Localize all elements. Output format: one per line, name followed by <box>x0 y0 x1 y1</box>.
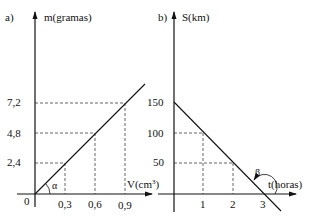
y-tick-a-2: 4,8 <box>7 127 21 139</box>
x-axis-label-b: t(horas) <box>268 178 303 191</box>
guide-lines-b <box>174 133 233 194</box>
origin-label-a: 0 <box>24 195 30 207</box>
chart-a: a) m(gramas) V(cm3) 0 α 7,2 4,8 2,4 0,3 … <box>5 11 160 211</box>
x-tick-a-1: 0,3 <box>58 198 72 210</box>
x-tick-b-3: 3 <box>260 198 266 210</box>
chart-b: b) S(km) t(horas) β 150 100 50 1 2 3 <box>147 11 303 212</box>
x-axis-label-a: V(cm3) <box>127 178 160 191</box>
y-tick-a-3: 7,2 <box>7 96 21 108</box>
x-tick-a-3: 0,9 <box>118 199 132 211</box>
y-axis-label-b: S(km) <box>182 11 210 24</box>
y-axis-label-a: m(gramas) <box>44 11 92 24</box>
angle-arc-a <box>46 183 50 194</box>
x-tick-a-2: 0,6 <box>88 198 102 210</box>
y-tick-b-2: 100 <box>147 127 164 139</box>
x-tick-b-2: 2 <box>230 198 236 210</box>
angle-beta: β <box>255 167 260 178</box>
figure: a) m(gramas) V(cm3) 0 α 7,2 4,8 2,4 0,3 … <box>0 0 318 220</box>
y-tick-b-1: 50 <box>153 156 165 168</box>
panel-b-label: b) <box>158 11 168 24</box>
data-line-b <box>174 102 281 211</box>
panel-a-label: a) <box>5 11 14 24</box>
y-tick-b-3: 150 <box>147 96 164 108</box>
x-tick-b-1: 1 <box>200 198 206 210</box>
angle-alpha: α <box>52 180 58 191</box>
y-tick-a-1: 2,4 <box>7 156 21 168</box>
